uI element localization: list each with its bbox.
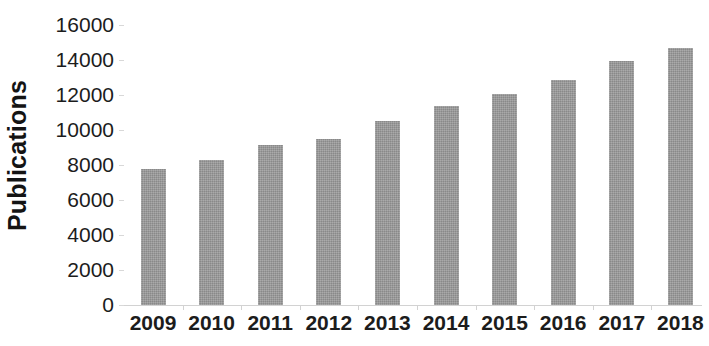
- y-axis-tick-label: 14000: [56, 48, 114, 72]
- bar-chart: Publications 020004000600080001000012000…: [0, 0, 709, 346]
- bar-2009: [141, 169, 166, 306]
- y-axis-tick-mark: [119, 235, 124, 236]
- x-axis-tick-label: 2012: [305, 311, 352, 335]
- x-axis-tick-label: 2013: [364, 311, 411, 335]
- y-axis-tick-mark: [119, 305, 124, 306]
- bar-2010: [199, 160, 224, 305]
- bar-2012: [316, 139, 341, 305]
- y-axis-tick-label: 10000: [56, 118, 114, 142]
- x-axis-tick-mark: [417, 306, 418, 310]
- bar-2018: [668, 48, 693, 305]
- y-axis-tick-mark: [119, 60, 124, 61]
- x-axis-tick-labels: 2009201020112012201320142015201620172018: [0, 311, 709, 346]
- y-axis-tick-mark: [119, 270, 124, 271]
- y-axis-title: Publications: [0, 0, 36, 310]
- x-axis-tick-mark: [534, 306, 535, 310]
- bar-2016: [551, 80, 576, 305]
- x-axis-tick-label: 2014: [423, 311, 470, 335]
- x-axis-tick-label: 2017: [598, 311, 645, 335]
- y-axis-tick-label: 12000: [56, 83, 114, 107]
- bar-2013: [375, 121, 400, 305]
- bar-2015: [492, 94, 517, 305]
- x-axis-tick-mark: [183, 306, 184, 310]
- y-axis-tick-mark: [119, 25, 124, 26]
- bar-2017: [609, 61, 634, 305]
- x-axis-tick-mark: [300, 306, 301, 310]
- y-axis-tick-label: 4000: [67, 223, 114, 247]
- x-axis-tick-label: 2009: [130, 311, 177, 335]
- x-axis-tick-label: 2018: [657, 311, 704, 335]
- x-axis-tick-label: 2015: [481, 311, 528, 335]
- y-axis-tick-labels: 0200040006000800010000120001400016000: [36, 0, 120, 346]
- x-axis-line: [124, 305, 702, 306]
- y-axis-tick-label: 2000: [67, 258, 114, 282]
- y-axis-title-label: Publications: [4, 79, 33, 230]
- y-axis-tick-label: 6000: [67, 188, 114, 212]
- y-axis-tick-label: 8000: [67, 153, 114, 177]
- x-axis-tick-mark: [651, 306, 652, 310]
- y-axis-tick-mark: [119, 165, 124, 166]
- x-axis-tick-mark: [241, 306, 242, 310]
- x-axis-tick-mark: [593, 306, 594, 310]
- x-axis-tick-label: 2011: [247, 311, 293, 335]
- x-axis-tick-mark: [476, 306, 477, 310]
- y-axis-tick-mark: [119, 130, 124, 131]
- x-axis-tick-label: 2010: [188, 311, 235, 335]
- y-axis-tick-label: 16000: [56, 13, 114, 37]
- y-axis-tick-mark: [119, 95, 124, 96]
- bar-2014: [434, 106, 459, 305]
- plot-area: [124, 10, 702, 305]
- bar-2011: [258, 145, 283, 305]
- x-axis-tick-mark: [358, 306, 359, 310]
- x-axis-tick-label: 2016: [540, 311, 587, 335]
- y-axis-tick-mark: [119, 200, 124, 201]
